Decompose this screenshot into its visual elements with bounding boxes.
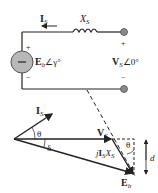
jisxs-label: jISXS (95, 148, 115, 160)
source-minus: − (26, 73, 31, 82)
theta-arc-left (32, 127, 35, 139)
synchronous-motor-diagram: IS XS + − Eb∠γ° + − VS∠0° IS θ δ VS jISX… (0, 0, 158, 193)
dashed-reference-line (87, 90, 135, 176)
delta-label: δ (47, 143, 51, 153)
delta-arc (44, 139, 45, 147)
phasor-diagram: IS θ δ VS jISXS θ d Eb (14, 90, 155, 190)
inductor-icon (73, 29, 97, 32)
is-label: IS (36, 105, 44, 118)
terminal-plus: + (121, 39, 126, 48)
terminal-minus: − (121, 73, 126, 82)
current-phasor (14, 114, 52, 139)
source-plus: + (26, 43, 31, 52)
terminal-top (121, 29, 128, 36)
theta-right-label: θ (126, 140, 130, 150)
d-label: d (150, 153, 155, 163)
current-label: IS (40, 13, 48, 26)
theta-arc-right (127, 150, 134, 154)
theta-left-label: θ (37, 129, 41, 139)
source-label: Eb∠γ° (35, 56, 61, 69)
terminal-bottom (121, 86, 128, 93)
reactance-label: XS (79, 13, 90, 26)
eb-label: Eb (121, 177, 132, 190)
equivalent-circuit: IS XS + − Eb∠γ° + − VS∠0° (11, 13, 139, 93)
vs-label: VS (97, 127, 108, 140)
terminal-voltage-label: VS∠0° (112, 56, 139, 69)
